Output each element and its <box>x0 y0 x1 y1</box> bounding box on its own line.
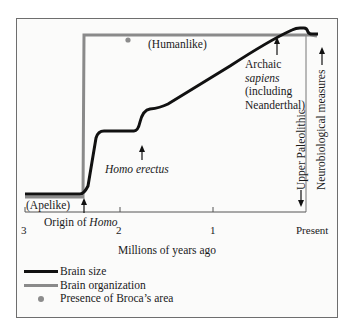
label-origin-prefix: Origin of <box>44 216 89 228</box>
label-origin-italic: Homo <box>89 216 117 228</box>
archaic-line-2: sapiens <box>245 72 305 86</box>
x-tick-label-3: 3 <box>21 224 27 236</box>
label-humanlike: (Humanlike) <box>148 38 207 51</box>
legend-item-brain-organization: Brain organization <box>24 279 173 293</box>
legend-item-broca: Presence of Broca’s area <box>24 292 173 306</box>
legend-label-brain-size: Brain size <box>60 265 106 279</box>
label-upper-paleolithic: Upper Paleolithic <box>295 109 307 190</box>
broca-area-marker <box>125 37 130 42</box>
x-tick-label-1: 1 <box>210 224 216 236</box>
legend-label-broca: Presence of Broca’s area <box>60 292 173 306</box>
legend-item-brain-size: Brain size <box>24 265 173 279</box>
homo-erectus-arrow-icon <box>139 145 145 160</box>
x-tick-label-present: Present <box>296 224 328 236</box>
legend-swatch-brain-size <box>24 270 58 273</box>
legend-swatch-brain-organization <box>24 284 58 287</box>
legend: Brain size Brain organization Presence o… <box>24 265 173 306</box>
x-axis-title: Millions of years ago <box>118 244 216 257</box>
neurobiological-up-arrow-icon <box>319 47 325 65</box>
origin-arrow-icon <box>81 198 87 213</box>
legend-label-brain-organization: Brain organization <box>60 279 146 293</box>
label-apelike: (Apelike) <box>26 199 70 212</box>
upper-paleolithic-arrow-icon <box>298 190 304 207</box>
archaic-line-3: (including <box>245 85 305 99</box>
label-homo-erectus: Homo erectus <box>105 163 169 176</box>
x-tick-label-2: 2 <box>116 224 122 236</box>
archaic-line-1: Archaic <box>245 58 305 72</box>
label-neurobiological-measures: Neurobiological measures <box>315 70 327 190</box>
legend-dot-broca-icon <box>38 296 44 302</box>
label-origin-of-homo: Origin of Homo <box>44 216 117 229</box>
label-archaic-sapiens: Archaic sapiens (including Neanderthal) <box>245 58 305 112</box>
